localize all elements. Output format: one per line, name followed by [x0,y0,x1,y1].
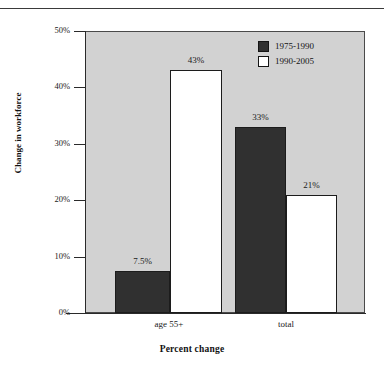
y-tick-text: 20% [38,195,70,204]
x-axis-line [66,313,366,314]
y-tick-mark-40 [74,87,86,88]
y-tick-text: 10% [38,252,70,261]
bar-age55-1975-1990 [115,271,170,313]
y-tick-label-50: 50% [38,26,70,36]
bar-value-age55-1975-1990: 7.5% [115,256,170,266]
chart-legend: 1975-1990 1990-2005 [258,40,314,67]
bar-age55-1990-2005 [170,70,222,313]
bar-total-1990-2005 [286,195,337,313]
y-tick-text: 40% [38,82,70,91]
y-tick-label-10: 10% [38,252,70,262]
y-tick-text: 50% [38,26,70,35]
y-tick-label-40: 40% [38,82,70,92]
y-tick-text: 0% [38,308,70,317]
legend-swatch-icon [258,56,269,67]
y-tick-label-30: 30% [38,139,70,149]
top-divider [0,8,384,9]
y-axis-line [85,31,86,314]
legend-item-1975-1990: 1975-1990 [258,40,314,52]
legend-item-1990-2005: 1990-2005 [258,55,314,67]
x-tick-label-age55: age 55+ [133,319,205,329]
chart-figure: 50% 40% 30% 20% 10% 0% Change in workfor… [0,0,384,370]
y-tick-mark-50 [74,31,86,32]
bar-value-total-1990-2005: 21% [286,180,337,190]
y-tick-mark-0 [74,313,86,314]
y-axis-title: Change in workforce [13,63,23,203]
x-tick-label-total: total [250,319,322,329]
legend-swatch-icon [258,41,269,52]
y-tick-text: 30% [38,139,70,148]
y-tick-mark-30 [74,144,86,145]
legend-label: 1990-2005 [275,56,314,67]
bar-value-total-1975-1990: 33% [235,112,286,122]
y-tick-mark-20 [74,200,86,201]
x-axis-title: Percent change [0,344,384,354]
bar-value-age55-1990-2005: 43% [170,55,222,65]
legend-label: 1975-1990 [275,41,314,52]
y-tick-mark-10 [74,257,86,258]
y-tick-label-20: 20% [38,195,70,205]
y-tick-label-0: 0% [38,308,70,318]
bar-total-1975-1990 [235,127,286,313]
